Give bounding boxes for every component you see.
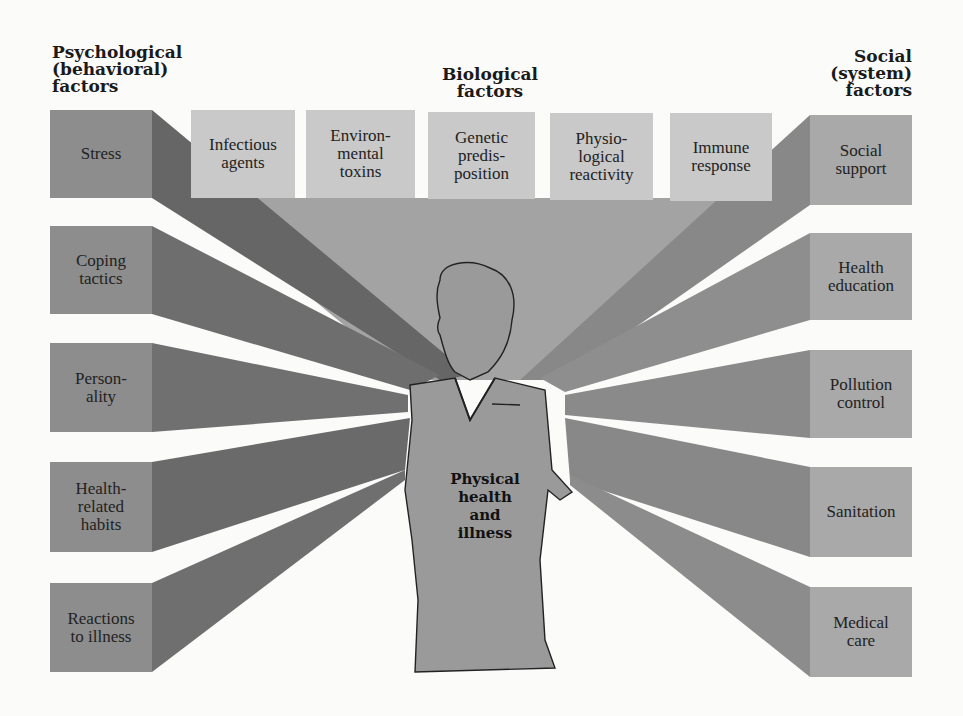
factor-pollution-control: Pollution control — [810, 350, 912, 438]
psychological-heading: Psychological (behavioral) factors — [52, 44, 182, 95]
factor-environmental-toxins: Environ- mental toxins — [306, 110, 415, 198]
factor-genetic-predisposition: Genetic predis- position — [428, 112, 535, 199]
factor-coping-tactics: Coping tactics — [50, 226, 152, 314]
factor-immune-response: Immune response — [670, 113, 772, 201]
factor-sanitation: Sanitation — [810, 467, 912, 557]
social-heading: Social (system) factors — [800, 48, 912, 99]
factor-medical-care: Medical care — [810, 587, 912, 677]
factor-physiological-reactivity: Physio- logical reactivity — [550, 113, 653, 200]
center-label-physical-health: Physical health and illness — [420, 470, 550, 542]
biological-heading: Biological factors — [420, 66, 560, 100]
factor-stress: Stress — [50, 110, 152, 198]
factor-personality: Person- ality — [50, 343, 152, 432]
factor-health-related-habits: Health- related habits — [50, 462, 152, 552]
factor-reactions-to-illness: Reactions to illness — [50, 583, 152, 672]
factor-social-support: Social support — [810, 115, 912, 205]
factor-health-education: Health education — [810, 233, 912, 320]
factor-infectious-agents: Infectious agents — [191, 110, 295, 198]
